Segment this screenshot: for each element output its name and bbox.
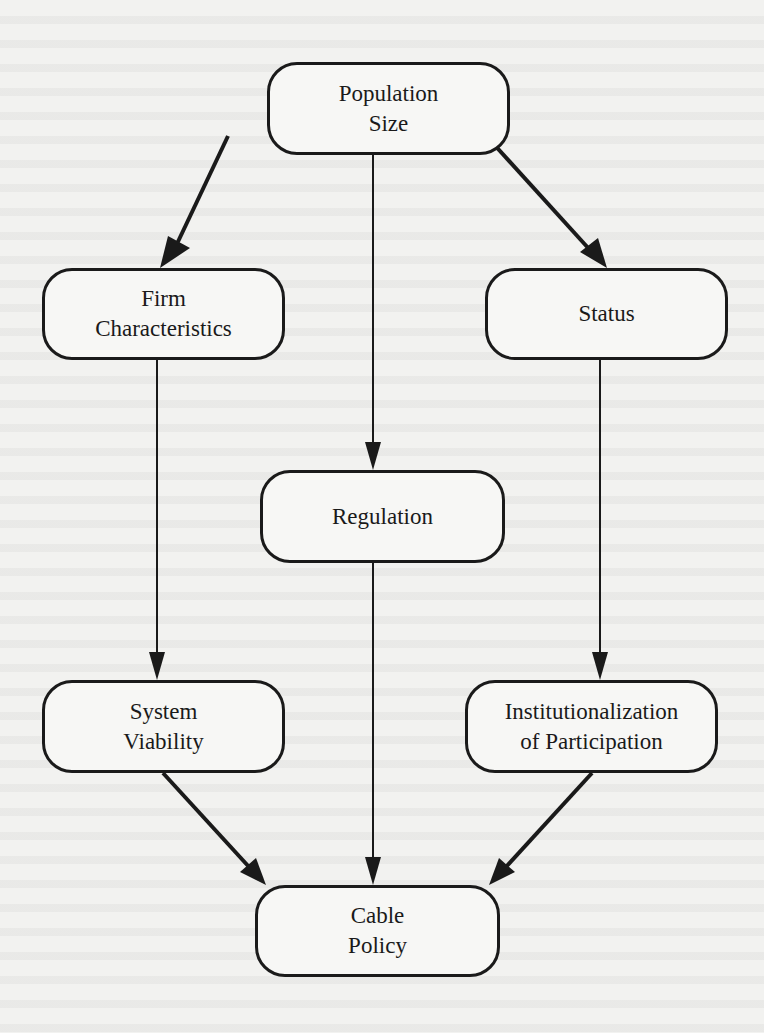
node-label-line: System <box>130 697 198 727</box>
node-firm-characteristics: Firm Characteristics <box>42 268 285 360</box>
node-label-line: Size <box>369 109 409 139</box>
node-label-line: Regulation <box>332 502 433 532</box>
node-label-line: Population <box>339 79 439 109</box>
node-label-line: Viability <box>123 727 203 757</box>
edge-institutionalization-to-cable <box>489 773 592 885</box>
edge-population-to-firm <box>160 136 228 268</box>
edge-regulation-to-cable <box>365 563 381 885</box>
node-label-line: Policy <box>348 931 407 961</box>
edge-firm-to-viability <box>149 360 165 680</box>
node-label-line: Institutionalization <box>505 697 679 727</box>
node-label-line: Status <box>578 299 634 329</box>
node-cable-policy: Cable Policy <box>255 885 500 977</box>
node-label-line: Firm <box>141 284 186 314</box>
edge-viability-to-cable <box>163 773 266 885</box>
node-regulation: Regulation <box>260 470 505 563</box>
node-system-viability: System Viability <box>42 680 285 773</box>
node-label-line: Characteristics <box>95 314 232 344</box>
node-institutionalization-of-participation: Institutionalization of Participation <box>465 680 718 773</box>
node-status: Status <box>485 268 728 360</box>
node-label-line: Cable <box>351 901 405 931</box>
edge-population-to-status <box>490 140 607 268</box>
node-population-size: Population Size <box>267 62 510 155</box>
edge-population-to-regulation <box>365 155 381 470</box>
edge-status-to-institutionalization <box>592 360 608 680</box>
node-label-line: of Participation <box>520 727 662 757</box>
